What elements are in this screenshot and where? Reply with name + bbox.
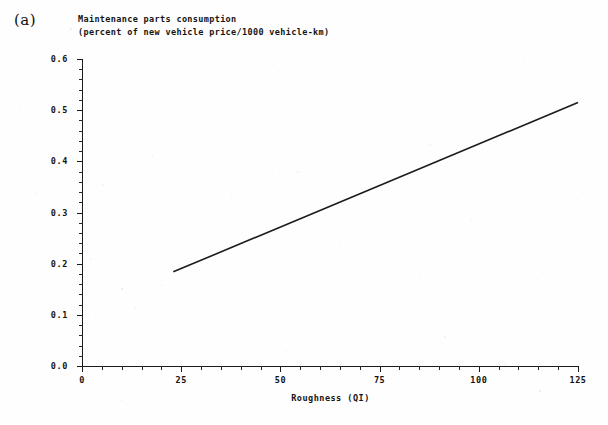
scan-speck	[285, 46, 286, 47]
plot-area: 0.00.10.20.30.40.50.6 0255075100125 Roug…	[82, 59, 578, 366]
y-tick-label: 0.6	[28, 54, 68, 64]
scan-speck	[583, 193, 584, 194]
chart-title: Maintenance parts consumption	[78, 13, 498, 26]
scan-speck	[17, 402, 18, 403]
scan-speck	[164, 119, 165, 120]
scan-speck	[210, 156, 211, 157]
scan-speck	[595, 296, 596, 297]
scan-speck	[286, 351, 287, 352]
x-axis-title: Roughness (QI)	[82, 393, 579, 403]
scan-speck	[279, 170, 280, 171]
chart-title-block: Maintenance parts consumption (percent o…	[78, 13, 498, 38]
scan-speck	[189, 266, 191, 268]
scan-speck	[444, 336, 446, 338]
scan-speck	[421, 166, 422, 167]
scan-speck	[10, 169, 11, 170]
y-tick-label: 0.5	[28, 105, 68, 115]
scan-speck	[254, 365, 255, 366]
scan-speck	[52, 167, 53, 168]
scan-speck	[539, 390, 541, 392]
scan-speck	[278, 153, 279, 154]
x-tick-label: 25	[161, 375, 201, 385]
scan-speck	[272, 64, 273, 65]
x-tick-label: 125	[558, 375, 598, 385]
scan-speck	[547, 316, 548, 317]
scan-speck	[382, 27, 383, 28]
scan-speck	[88, 317, 89, 318]
x-tick-label: 50	[260, 375, 300, 385]
scan-speck	[44, 386, 45, 387]
x-tick-label: 100	[459, 375, 499, 385]
scan-speck	[121, 288, 123, 290]
scan-speck	[195, 163, 196, 164]
scan-speck	[334, 271, 335, 272]
y-tick-label: 0.2	[28, 259, 68, 269]
scan-speck	[242, 170, 243, 171]
scan-speck	[291, 311, 292, 312]
scan-speck	[297, 171, 299, 173]
scan-speck	[18, 253, 19, 254]
scan-speck	[231, 194, 232, 195]
scan-speck	[244, 223, 245, 224]
chart-subtitle: (percent of new vehicle price/1000 vehic…	[78, 26, 498, 39]
scan-speck	[19, 104, 20, 105]
scan-speck	[429, 144, 431, 146]
scan-speck	[305, 102, 306, 103]
scan-speck	[266, 338, 267, 339]
scan-speck	[591, 156, 592, 157]
scan-speck	[471, 219, 472, 220]
scan-speck	[339, 243, 340, 244]
scan-speck	[504, 364, 505, 365]
scan-speck	[295, 8, 296, 9]
scan-speck	[161, 284, 163, 286]
scan-speck	[148, 329, 149, 330]
scan-speck	[547, 37, 548, 38]
scan-speck	[420, 279, 421, 280]
scan-speck	[408, 126, 409, 127]
data-series-line	[82, 59, 579, 367]
scan-speck	[122, 20, 123, 21]
scan-speck	[210, 36, 211, 37]
scan-speck	[543, 202, 544, 203]
x-tick-label: 0	[62, 375, 102, 385]
scan-speck	[136, 317, 137, 318]
scan-speck	[536, 278, 537, 279]
scan-speck	[523, 61, 524, 62]
scan-speck	[354, 309, 355, 310]
scan-speck	[353, 189, 354, 190]
scan-speck	[102, 184, 104, 186]
scan-speck	[117, 298, 118, 299]
scan-speck	[87, 244, 88, 245]
y-tick-label: 0.0	[28, 361, 68, 371]
panel-letter: (a)	[14, 11, 36, 29]
y-tick-label: 0.1	[28, 310, 68, 320]
scan-speck	[476, 56, 477, 57]
x-tick-label: 75	[360, 375, 400, 385]
scan-speck	[486, 357, 487, 358]
scan-speck	[70, 28, 72, 30]
scan-speck	[189, 395, 190, 396]
scan-speck	[135, 225, 136, 226]
figure-panel: (a) Maintenance parts consumption (perce…	[0, 0, 608, 425]
scan-speck	[410, 249, 411, 250]
y-tick-label: 0.3	[28, 208, 68, 218]
y-tick-label: 0.4	[28, 156, 68, 166]
scan-speck	[121, 400, 122, 401]
scan-speck	[90, 258, 92, 260]
scan-speck	[436, 92, 437, 93]
scan-speck	[35, 192, 36, 193]
scan-speck	[152, 156, 153, 157]
scan-speck	[291, 223, 292, 224]
scan-speck	[361, 212, 362, 213]
scan-speck	[129, 346, 130, 347]
scan-speck	[134, 307, 136, 309]
